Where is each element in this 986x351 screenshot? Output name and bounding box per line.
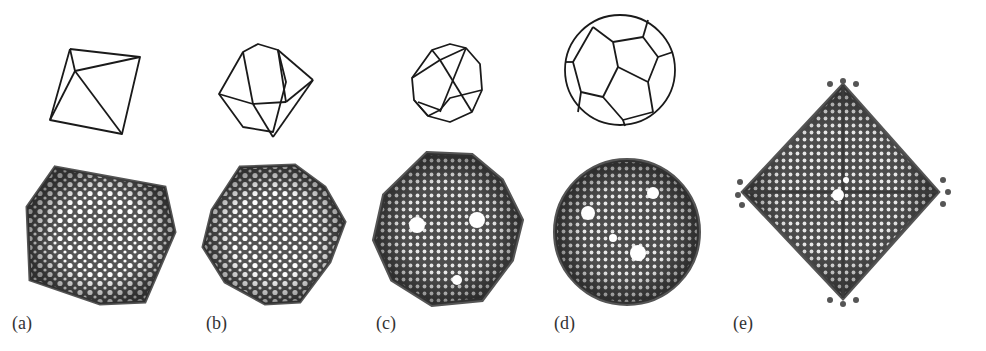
- cuboctahedral-cage: [200, 162, 348, 307]
- octahedral-cage: [25, 162, 170, 307]
- spherical-cage: [553, 158, 701, 306]
- panel-label-c: (c): [376, 313, 396, 334]
- panel-label-b: (b): [206, 313, 227, 334]
- panel-label-e: (e): [733, 313, 753, 334]
- panel-label-a: (a): [12, 313, 32, 334]
- cuboctahedron-wireframe: [218, 42, 318, 142]
- panel-label-d: (d): [554, 313, 575, 334]
- icosidodecahedron-wireframe: [410, 42, 492, 124]
- icosahedral-cage: [372, 150, 524, 308]
- octahedral-cage-vertices: [738, 80, 953, 305]
- octahedron-wireframe: [45, 45, 145, 140]
- rhombicosidodecahedron-wireframe: [563, 12, 678, 132]
